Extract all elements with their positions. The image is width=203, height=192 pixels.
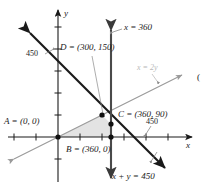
y-axis-label: y <box>64 9 68 18</box>
coordinate-plot <box>0 0 203 192</box>
x-axis-label: x <box>186 141 190 150</box>
label-line-x-equals-2y: x = 2y <box>137 64 158 72</box>
margin-paren: ( <box>197 73 200 82</box>
x-axis-value-450: 450 <box>146 118 158 126</box>
figure-canvas: y x 450 450 x = 360 x = 2y x + y = 450 A… <box>0 0 203 192</box>
vertex-d-dot <box>99 112 104 117</box>
label-vertex-b: B = (360, 0) <box>66 145 111 154</box>
label-line-x-equals-360: x = 360 <box>124 23 152 32</box>
leader-x-equals-2y <box>152 74 157 81</box>
feasible-region <box>58 115 111 137</box>
vertex-c-dot <box>108 121 113 126</box>
label-line-x-plus-y-equals-450: x + y = 450 <box>112 172 155 181</box>
vertex-a-dot <box>55 134 60 139</box>
vertex-b-dot <box>108 134 113 139</box>
label-vertex-a: A = (0, 0) <box>4 117 39 126</box>
leader-x-equals-360 <box>113 29 122 32</box>
y-axis-value-450: 450 <box>26 50 38 58</box>
leader-vertex-d <box>92 56 103 114</box>
leader-x-intercept-450 <box>146 126 151 134</box>
label-vertex-d: D = (300, 150) <box>60 43 115 52</box>
label-vertex-c: C = (360, 90) <box>118 110 168 119</box>
